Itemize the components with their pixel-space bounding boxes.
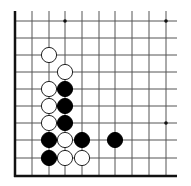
board-grid — [14, 11, 177, 177]
black-stone — [74, 132, 89, 147]
white-stone — [41, 81, 56, 96]
black-stone — [107, 132, 122, 147]
star-point-icon — [164, 121, 168, 125]
black-stone — [41, 132, 56, 147]
white-stone — [57, 132, 72, 147]
white-stone — [74, 150, 89, 165]
white-stone — [57, 150, 72, 165]
black-stone — [57, 115, 72, 130]
go-board — [0, 0, 191, 186]
star-point-icon — [63, 19, 67, 23]
white-stone — [57, 64, 72, 79]
black-stone — [57, 98, 72, 113]
white-stone — [41, 115, 56, 130]
black-stone — [57, 81, 72, 96]
white-stone — [41, 47, 56, 62]
white-stone — [41, 98, 56, 113]
star-point-icon — [164, 19, 168, 23]
black-stone — [41, 150, 56, 165]
